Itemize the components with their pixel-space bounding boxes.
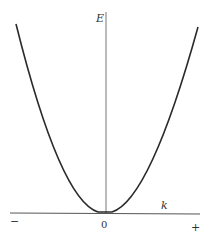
origin-label: 0: [101, 219, 107, 230]
k-axis: [10, 213, 200, 214]
dispersion-diagram: E k 0 − +: [0, 0, 211, 239]
k-axis-label: k: [161, 199, 168, 212]
negative-label: −: [10, 215, 19, 228]
parabola-curve: [16, 24, 198, 212]
e-axis-label: E: [95, 12, 104, 25]
positive-label: +: [191, 221, 200, 234]
